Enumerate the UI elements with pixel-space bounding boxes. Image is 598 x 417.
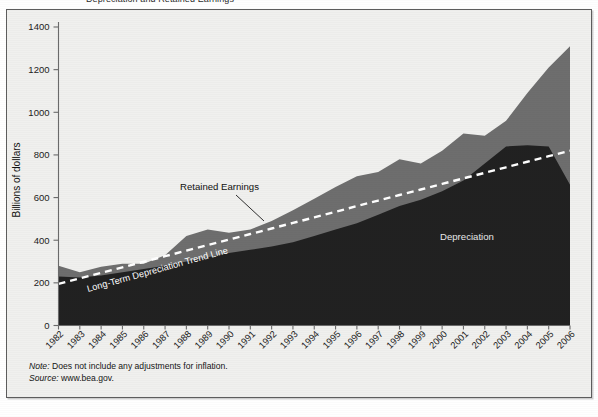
source-text: www.bea.gov. [59,373,114,383]
footer-divider [6,397,592,398]
note-line: Note: Does not include any adjustments f… [29,360,549,372]
chart-figure: Depreciation and Retained Earnings 02004… [0,0,598,417]
source-line: Source: www.bea.gov. [29,372,549,384]
chart-frame [6,9,592,398]
clipped-chart-title-text: Depreciation and Retained Earnings [86,0,234,4]
note-text: Does not include any adjustments for inf… [50,361,228,371]
note-label: Note: [29,361,50,371]
source-label: Source: [29,373,59,383]
clipped-chart-title: Depreciation and Retained Earnings [0,0,598,9]
figure-notes: Note: Does not include any adjustments f… [29,360,549,385]
